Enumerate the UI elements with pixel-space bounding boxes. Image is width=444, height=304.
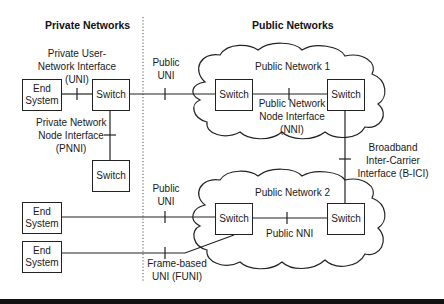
public-network-1-switch-right[interactable]: Switch [327,79,365,111]
public-uni-1-label: Public UNI [146,56,186,82]
public-uni-2-label: Public UNI [146,182,186,208]
atm-network-interfaces-diagram: Private Networks Public Networks Private… [0,0,444,304]
funi-label: Frame-based UNI (FUNI) [146,257,208,283]
public-networks-header: Public Networks [252,19,334,31]
public-network-2-label: Public Network 2 [255,186,330,199]
public-network-2-switch-left[interactable]: Switch [215,203,253,235]
public-nni-label: Public NNI [266,227,313,240]
end-system-2[interactable]: EndSystem [22,202,62,234]
private-switch-1[interactable]: Switch [92,79,130,111]
b-ici-label: Broadband Inter-Carrier Interface (B-ICI… [357,141,429,180]
public-network-1-label: Public Network 1 [255,60,330,73]
private-networks-header: Private Networks [45,19,130,31]
nni-label: Public Network Node Interface (NNI) [254,97,330,136]
pnni-label: Private Network Node Interface (PNNI) [36,116,106,155]
public-network-2-switch-right[interactable]: Switch [327,203,365,235]
private-switch-2[interactable]: Switch [92,160,130,192]
bottom-border-bar [0,299,444,304]
end-system-1[interactable]: EndSystem [22,79,62,111]
end-system-3[interactable]: EndSystem [22,241,62,273]
funi-link [61,235,234,253]
public-network-1-switch-left[interactable]: Switch [215,79,253,111]
